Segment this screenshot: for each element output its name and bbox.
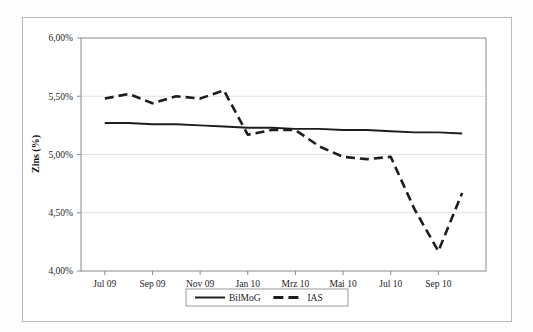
legend-label-bilmog: BilMoG (229, 293, 261, 303)
y-axis-ticks: 6,00%5,50%5,00%4,50%4,00% (48, 33, 81, 276)
x-axis-ticks: Jul 09Sep 09Nov 09Jan 10Mrz 10Mai 10Jul … (93, 271, 451, 289)
y-axis-title: Zins (%) (30, 135, 42, 173)
y-tick-label: 5,50% (48, 92, 73, 102)
gridlines-group (81, 96, 486, 213)
y-tick-label: 6,00% (48, 33, 73, 43)
x-tick-label: Mai 10 (329, 279, 356, 289)
x-tick-label: Jul 10 (379, 279, 402, 289)
series-group (105, 90, 462, 251)
x-tick-label: Mrz 10 (282, 279, 310, 289)
y-tick-label: 4,00% (48, 266, 73, 276)
chart-outer-frame: 6,00%5,50%5,00%4,50%4,00% Jul 09Sep 09No… (22, 17, 512, 322)
y-axis-title-text: Zins (%) (30, 135, 42, 173)
chart-canvas: 6,00%5,50%5,00%4,50%4,00% Jul 09Sep 09No… (23, 18, 511, 321)
x-tick-label: Jan 10 (235, 279, 260, 289)
y-tick-label: 4,50% (48, 208, 73, 218)
x-tick-label: Sep 09 (139, 279, 165, 289)
series-line-ias (105, 90, 462, 251)
chart-figure: 6,00%5,50%5,00%4,50%4,00% Jul 09Sep 09No… (0, 0, 533, 332)
x-tick-label: Nov 09 (186, 279, 214, 289)
x-tick-label: Sep 10 (425, 279, 451, 289)
x-tick-label: Jul 09 (93, 279, 116, 289)
series-line-bilmog (105, 123, 462, 133)
legend-label-ias: IAS (307, 293, 322, 303)
chart-legend: BilMoGIAS (186, 289, 348, 306)
y-tick-label: 5,00% (48, 150, 73, 160)
